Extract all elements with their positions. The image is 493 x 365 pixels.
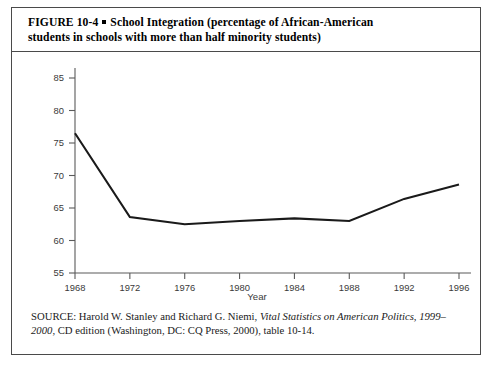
y-axis-tick-label: 65 [54, 202, 64, 213]
x-axis-tick-label: 1968 [65, 282, 86, 293]
source-italic-year: 2000 [31, 324, 52, 336]
figure-caption: FIGURE 10-4School Integration (percentag… [12, 8, 480, 52]
source-suffix: , CD edition (Washington, DC: CQ Press, … [52, 324, 314, 336]
source-prefix: SOURCE: Harold W. Stanley and Richard G.… [31, 310, 260, 322]
y-axis-tick-label: 70 [54, 170, 64, 181]
x-axis-tick-label: 1988 [339, 282, 360, 293]
x-axis-tick-label: 1996 [449, 282, 470, 293]
x-axis-tick-label: 1992 [394, 282, 415, 293]
x-axis-title: Year [247, 291, 267, 302]
figure-container: FIGURE 10-4School Integration (percentag… [11, 7, 481, 355]
y-axis-tick-label: 85 [54, 72, 64, 83]
source-italic-title: Vital Statistics on American Politics, 1… [260, 310, 446, 322]
figure-number: FIGURE 10-4 [28, 16, 98, 29]
figure-title-line-1: School Integration (percentage of Africa… [110, 16, 373, 29]
data-series-line [75, 133, 459, 224]
x-axis-tick-label: 1984 [284, 282, 305, 293]
y-axis-tick-label: 60 [54, 235, 64, 246]
x-axis-tick-label: 1972 [119, 282, 140, 293]
x-axis: 19681972197619801984198819921996 [65, 273, 471, 293]
y-axis-tick-label: 55 [54, 267, 64, 278]
line-chart-svg: 55606570758085 1968197219761980198419881… [12, 60, 480, 304]
y-axis-tick-label: 75 [54, 137, 64, 148]
y-axis: 55606570758085 [54, 68, 75, 278]
figure-title-line-2: students in schools with more than half … [28, 31, 321, 44]
chart-plot-area: 55606570758085 1968197219761980198419881… [12, 60, 480, 304]
x-axis-tick-label: 1976 [174, 282, 195, 293]
caption-square-icon [102, 20, 106, 24]
source-note: SOURCE: Harold W. Stanley and Richard G.… [12, 309, 480, 354]
y-axis-tick-label: 80 [54, 105, 64, 116]
